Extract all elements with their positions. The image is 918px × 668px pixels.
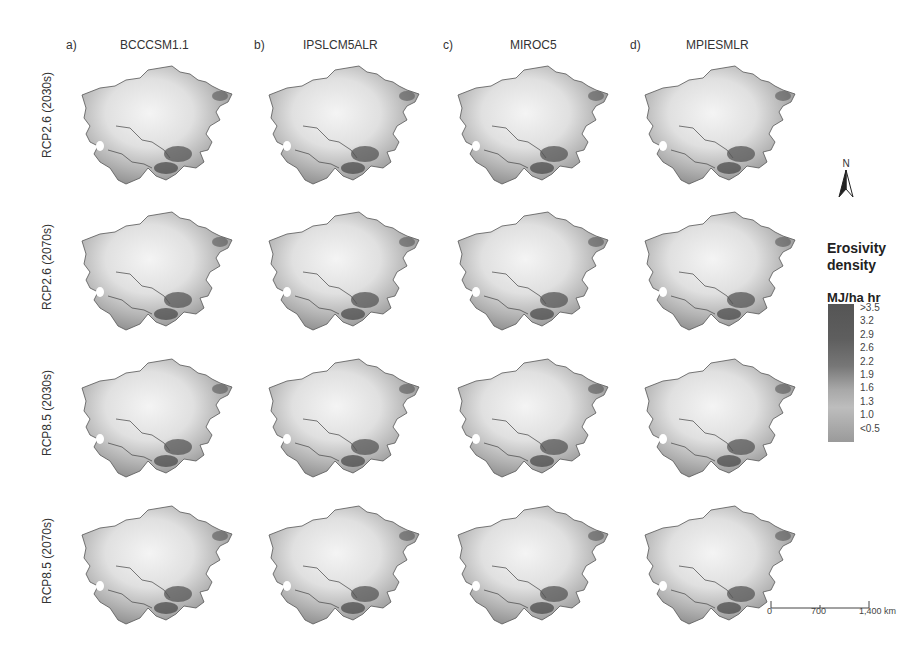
- legend-ticks: >3.5 3.2 2.9 2.6 2.2 1.9 1.6 1.3 1.0 <0.…: [860, 301, 880, 435]
- legend-tick: 3.2: [860, 314, 880, 327]
- map-panel: [60, 343, 240, 493]
- row-label-4: RCP8.5 (2070s): [40, 518, 54, 604]
- map-panel: [247, 196, 427, 346]
- map-panel: [623, 343, 803, 493]
- map-panel: [60, 50, 240, 200]
- map-panel: [436, 50, 616, 200]
- scale-label: 1,400 km: [859, 606, 896, 616]
- north-label: N: [838, 158, 854, 169]
- map-panel: [623, 490, 803, 640]
- legend-tick: 1.6: [860, 381, 880, 394]
- legend-title: Erosivity density: [827, 240, 886, 274]
- map-panel: [247, 343, 427, 493]
- legend-tick: 1.9: [860, 368, 880, 381]
- legend-tick: 1.3: [860, 395, 880, 408]
- row-label-2: RCP2.6 (2070s): [40, 224, 54, 310]
- map-panel: [60, 196, 240, 346]
- legend-tick: 2.9: [860, 328, 880, 341]
- legend-color-ramp: [828, 304, 854, 442]
- row-label-1: RCP2.6 (2030s): [40, 72, 54, 158]
- legend-tick: 2.2: [860, 355, 880, 368]
- map-panel: [436, 196, 616, 346]
- map-panel: [623, 50, 803, 200]
- scale-label: 0: [767, 606, 772, 616]
- map-panel: [247, 50, 427, 200]
- map-panel: [436, 343, 616, 493]
- scale-label: 700: [811, 606, 826, 616]
- legend-title-line2: density: [827, 257, 886, 274]
- north-arrow: N: [838, 158, 854, 201]
- legend-title-line1: Erosivity: [827, 240, 886, 257]
- map-panel: [247, 490, 427, 640]
- legend-tick: 2.6: [860, 341, 880, 354]
- row-label-3: RCP8.5 (2030s): [40, 370, 54, 456]
- map-panel: [436, 490, 616, 640]
- legend-tick: >3.5: [860, 301, 880, 314]
- map-panel: [623, 196, 803, 346]
- map-panel: [60, 490, 240, 640]
- north-arrow-icon: [838, 169, 854, 199]
- legend-tick: <0.5: [860, 422, 880, 435]
- legend-tick: 1.0: [860, 408, 880, 421]
